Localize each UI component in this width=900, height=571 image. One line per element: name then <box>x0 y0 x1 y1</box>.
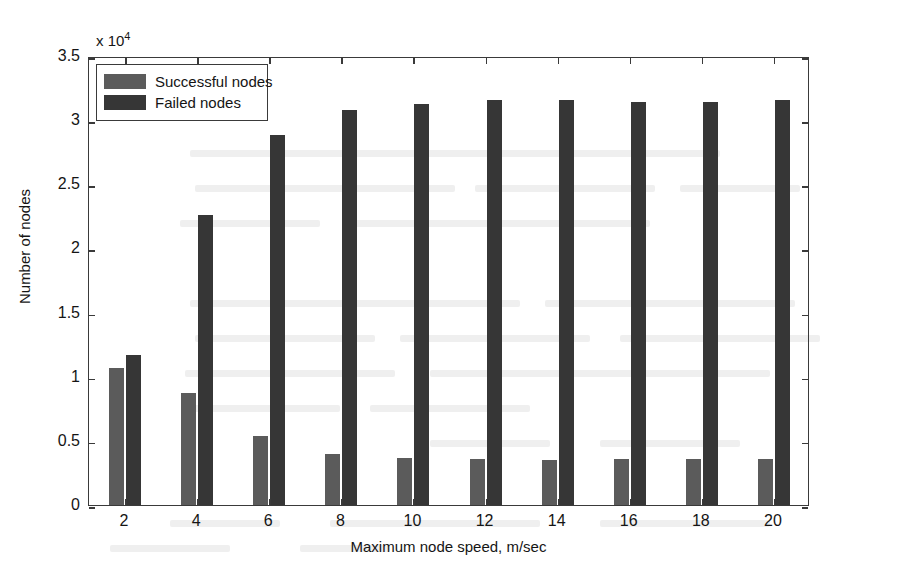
y-tick-label-0.5: 0.5 <box>28 432 80 450</box>
bar-failed-nodes-speed-2 <box>126 355 141 505</box>
bar-successful-nodes-speed-12 <box>470 459 485 505</box>
y-tick-2 <box>89 250 95 252</box>
bar-failed-nodes-speed-10 <box>414 104 429 505</box>
bar-failed-nodes-speed-16 <box>631 102 646 505</box>
y-axis-exponent-mantissa: x 10 <box>96 32 124 49</box>
x-tick-8 <box>341 499 343 505</box>
x-tick-16 <box>630 58 632 64</box>
legend-item-failed-nodes: Failed nodes <box>104 92 260 113</box>
y-tick-1 <box>89 379 95 381</box>
bar-failed-nodes-speed-6 <box>270 135 285 505</box>
x-tick-18 <box>702 58 704 64</box>
y-tick-1.5 <box>802 315 808 317</box>
bar-failed-nodes-speed-20 <box>775 100 790 505</box>
y-tick-2.5 <box>89 186 95 188</box>
y-tick-label-2: 2 <box>28 239 80 257</box>
y-tick-0 <box>89 507 95 509</box>
bars-layer <box>89 58 808 505</box>
x-tick-4 <box>197 499 199 505</box>
x-tick-8 <box>341 58 343 64</box>
legend-swatch-successful-nodes <box>104 74 146 89</box>
y-tick-3 <box>89 122 95 124</box>
bar-successful-nodes-speed-18 <box>686 459 701 505</box>
x-tick-label-14: 14 <box>535 512 579 530</box>
legend-label-successful-nodes: Successful nodes <box>155 74 273 89</box>
y-tick-label-3: 3 <box>28 111 80 129</box>
bar-failed-nodes-speed-14 <box>559 100 574 505</box>
x-tick-label-20: 20 <box>751 512 795 530</box>
x-tick-6 <box>269 58 271 64</box>
plot-area-frame <box>88 57 809 506</box>
y-tick-3 <box>802 122 808 124</box>
bar-failed-nodes-speed-18 <box>703 102 718 505</box>
x-tick-2 <box>125 499 127 505</box>
y-tick-3.5 <box>89 58 95 60</box>
y-tick-1 <box>802 379 808 381</box>
x-tick-14 <box>558 499 560 505</box>
x-tick-18 <box>702 499 704 505</box>
bar-successful-nodes-speed-4 <box>181 393 196 505</box>
legend-swatch-failed-nodes <box>104 95 146 110</box>
x-tick-label-12: 12 <box>463 512 507 530</box>
x-tick-12 <box>486 499 488 505</box>
x-axis-title: Maximum node speed, m/sec <box>88 538 809 555</box>
bar-successful-nodes-speed-20 <box>758 459 773 505</box>
x-tick-6 <box>269 499 271 505</box>
y-tick-2 <box>802 250 808 252</box>
x-tick-label-6: 6 <box>246 512 290 530</box>
legend-item-successful-nodes: Successful nodes <box>104 71 260 92</box>
y-tick-0.5 <box>89 443 95 445</box>
x-tick-10 <box>413 58 415 64</box>
bar-successful-nodes-speed-14 <box>542 460 557 505</box>
bar-failed-nodes-speed-12 <box>487 100 502 505</box>
x-tick-14 <box>558 58 560 64</box>
x-tick-label-4: 4 <box>174 512 218 530</box>
bar-successful-nodes-speed-6 <box>253 436 268 505</box>
x-tick-label-16: 16 <box>607 512 651 530</box>
y-tick-label-1.5: 1.5 <box>28 304 80 322</box>
x-tick-10 <box>413 499 415 505</box>
bar-successful-nodes-speed-2 <box>109 368 124 505</box>
bar-failed-nodes-speed-8 <box>342 110 357 505</box>
x-tick-label-2: 2 <box>102 512 146 530</box>
chart-legend: Successful nodes Failed nodes <box>96 64 268 121</box>
y-tick-label-1: 1 <box>28 368 80 386</box>
x-tick-12 <box>486 58 488 64</box>
bar-chart-figure: x 104 Number of nodes Maximum node speed… <box>0 0 900 571</box>
y-tick-label-3.5: 3.5 <box>28 47 80 65</box>
bar-failed-nodes-speed-4 <box>198 215 213 505</box>
x-tick-16 <box>630 499 632 505</box>
x-tick-label-8: 8 <box>318 512 362 530</box>
y-axis-exponent-label: x 104 <box>96 30 130 49</box>
x-tick-20 <box>774 58 776 64</box>
x-tick-label-10: 10 <box>390 512 434 530</box>
bar-successful-nodes-speed-16 <box>614 459 629 505</box>
y-tick-label-2.5: 2.5 <box>28 175 80 193</box>
bar-successful-nodes-speed-8 <box>325 454 340 505</box>
x-tick-label-18: 18 <box>679 512 723 530</box>
bar-successful-nodes-speed-10 <box>397 458 412 505</box>
y-tick-0 <box>802 507 808 509</box>
y-tick-2.5 <box>802 186 808 188</box>
y-tick-0.5 <box>802 443 808 445</box>
y-tick-3.5 <box>802 58 808 60</box>
legend-label-failed-nodes: Failed nodes <box>155 95 241 110</box>
y-tick-label-0: 0 <box>28 496 80 514</box>
x-tick-20 <box>774 499 776 505</box>
y-tick-1.5 <box>89 315 95 317</box>
y-axis-exponent-power: 4 <box>124 30 130 42</box>
